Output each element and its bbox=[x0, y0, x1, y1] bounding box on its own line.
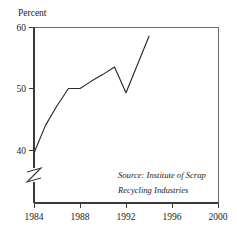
source-note-line-1: Source: Institute of Scrap bbox=[118, 170, 206, 180]
x-tick-label-1984: 1984 bbox=[25, 212, 44, 222]
y-tick-label-40: 40 bbox=[17, 146, 27, 156]
source-note-line-2: Recycling Industries bbox=[117, 185, 189, 195]
chart-figure: Percent 60 50 40 1984 1988 1992 1996 200… bbox=[0, 0, 237, 235]
x-tick-label-1996: 1996 bbox=[163, 212, 182, 222]
x-tick-label-2000: 2000 bbox=[209, 212, 228, 222]
data-series-line bbox=[34, 36, 149, 153]
y-tick-label-50: 50 bbox=[17, 84, 27, 94]
x-tick-label-1988: 1988 bbox=[71, 212, 90, 222]
y-axis-break-icon bbox=[27, 168, 41, 182]
y-axis-title: Percent bbox=[18, 8, 47, 18]
line-chart-canvas: Percent 60 50 40 1984 1988 1992 1996 200… bbox=[0, 0, 237, 235]
x-tick-label-1992: 1992 bbox=[117, 212, 136, 222]
y-tick-label-60: 60 bbox=[17, 23, 27, 33]
